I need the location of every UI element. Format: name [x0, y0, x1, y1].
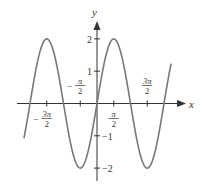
- sine-chart: xy 3π2−π2−π23π221−1−2: [0, 0, 202, 193]
- svg-text:2: 2: [145, 86, 149, 96]
- svg-text:2: 2: [45, 119, 49, 129]
- y-tick-label: −1: [102, 131, 113, 142]
- svg-text:−: −: [33, 114, 38, 124]
- y-tick-label: 1: [87, 66, 92, 77]
- y-axis-arrow-icon: [94, 21, 101, 30]
- ticks: 3π2−π2−π23π221−1−2: [33, 34, 152, 174]
- svg-text:−: −: [67, 81, 72, 91]
- x-tick-label: π2−: [67, 76, 86, 96]
- x-axis-arrow-icon: [177, 100, 186, 107]
- y-tick-label: 2: [87, 34, 92, 45]
- axes: xy: [17, 6, 194, 181]
- svg-text:2: 2: [112, 119, 116, 129]
- x-axis-label: x: [188, 98, 194, 110]
- x-tick-label: 3π2−: [33, 109, 52, 129]
- y-tick-label: −2: [102, 163, 113, 174]
- svg-text:π: π: [78, 76, 83, 86]
- svg-text:3π: 3π: [41, 109, 51, 119]
- x-tick-label: π2: [109, 109, 119, 129]
- svg-text:π: π: [112, 109, 117, 119]
- svg-text:2: 2: [78, 86, 82, 96]
- y-axis-label: y: [91, 6, 97, 18]
- svg-text:3π: 3π: [142, 76, 152, 86]
- x-tick-label: 3π2: [142, 76, 152, 96]
